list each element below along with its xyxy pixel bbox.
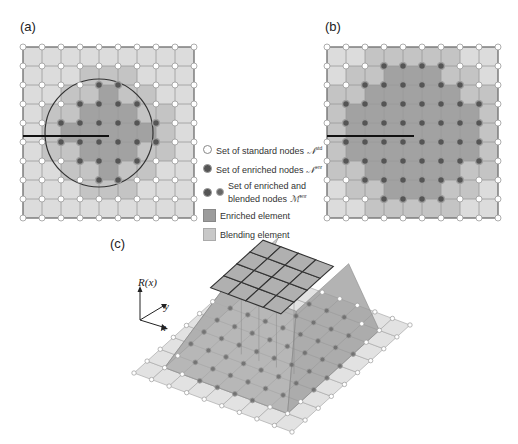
standard-node: [343, 196, 349, 202]
standard-node: [134, 63, 140, 69]
standard-node: [39, 44, 45, 50]
enriched-node-3d: [294, 381, 299, 386]
standard-node: [58, 177, 64, 183]
enriched-node-3d: [237, 343, 242, 348]
standard-node: [495, 63, 501, 69]
standard-node: [39, 158, 45, 164]
standard-node: [20, 44, 26, 50]
enriched-node-3d: [302, 350, 307, 355]
enriched-node-3d: [324, 308, 329, 313]
enriched-node: [457, 82, 464, 89]
enriched-node-3d: [215, 385, 220, 390]
standard-node: [476, 196, 482, 202]
enriched-node: [438, 120, 445, 127]
standard-node: [58, 101, 64, 107]
enriched-node-3d: [294, 314, 299, 319]
enriched-node-3d: [324, 375, 329, 380]
enriched-node: [457, 139, 464, 146]
mesh-element: [156, 199, 175, 218]
enriched-node-3d: [307, 302, 312, 307]
enriched-node: [362, 101, 369, 108]
enriched-node-3d: [228, 306, 233, 311]
standard-node-3d: [197, 311, 201, 315]
standard-node: [39, 177, 45, 183]
mesh-element: [479, 47, 498, 66]
mesh-element: [118, 199, 137, 218]
standard-node-3d: [290, 430, 294, 434]
standard-node-3d: [342, 382, 346, 386]
enriched-node-3d: [298, 332, 303, 337]
standard-node: [343, 82, 349, 88]
standard-node: [172, 215, 178, 221]
standard-node: [324, 63, 330, 69]
standard-node: [58, 158, 64, 164]
mesh-element: [23, 123, 42, 142]
standard-node: [77, 82, 83, 88]
enriched-node: [134, 101, 141, 108]
enriched-node: [77, 139, 84, 146]
standard-node: [324, 101, 330, 107]
standard-node: [495, 158, 501, 164]
standard-node-3d: [377, 328, 381, 332]
enriched-node-3d: [250, 398, 255, 403]
standard-node: [324, 158, 330, 164]
standard-node: [153, 63, 159, 69]
mesh-element: [175, 66, 194, 85]
standard-node: [362, 44, 368, 50]
enriched-node: [419, 139, 426, 146]
enriched-node: [381, 196, 388, 203]
mesh-element: [156, 85, 175, 104]
standard-node-3d: [171, 335, 175, 339]
enriched-node: [362, 177, 369, 184]
enriched-node: [400, 196, 407, 203]
standard-node: [96, 215, 102, 221]
mesh-element: [156, 161, 175, 180]
enriched-node-3d: [202, 330, 207, 335]
enriched-node-3d: [263, 319, 268, 324]
enriched-node: [419, 120, 426, 127]
enriched-node-3d: [188, 341, 193, 346]
mesh-element: [80, 47, 99, 66]
standard-node-3d: [220, 404, 224, 408]
legend-item-enriched-nodes: Set of enriched nodes 𝒩enr: [203, 159, 323, 178]
enriched-node-3d: [351, 352, 356, 357]
standard-node: [96, 63, 102, 69]
mesh-element: [42, 47, 61, 66]
enriched-node: [96, 101, 103, 108]
mesh-element: [346, 47, 365, 66]
standard-node-3d: [184, 323, 188, 327]
standard-node: [58, 63, 64, 69]
enriched-node-3d: [342, 315, 347, 320]
mesh-element: [23, 161, 42, 180]
mesh-element: [23, 85, 42, 104]
standard-node-3d: [382, 347, 386, 351]
enriched-node-3d: [250, 331, 255, 336]
enriched-node: [77, 158, 84, 165]
standard-node: [39, 120, 45, 126]
standard-node-3d: [390, 316, 394, 320]
standard-node: [77, 177, 83, 183]
enriched-node: [400, 177, 407, 184]
standard-node-3d: [355, 303, 359, 307]
mesh-element: [61, 199, 80, 218]
enriched-node-icon: [203, 164, 212, 173]
standard-node: [457, 44, 463, 50]
mesh-element: [479, 66, 498, 85]
mesh-element: [23, 199, 42, 218]
enriched-node-3d: [254, 349, 259, 354]
enriched-node-3d: [232, 391, 237, 396]
enriched-element-swatch: [203, 209, 216, 222]
enriched-node-3d: [215, 318, 220, 323]
mesh-element: [327, 66, 346, 85]
mesh-element: [175, 104, 194, 123]
standard-node: [495, 120, 501, 126]
standard-node: [476, 44, 482, 50]
enriched-node: [381, 120, 388, 127]
standard-node: [495, 101, 501, 107]
standard-node: [58, 196, 64, 202]
standard-node-3d: [272, 423, 276, 427]
standard-node: [172, 196, 178, 202]
mesh-element: [23, 142, 42, 161]
standard-node-3d: [184, 390, 188, 394]
enriched-node-3d: [272, 356, 277, 361]
